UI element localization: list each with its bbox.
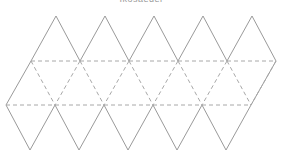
cut-edge [30, 105, 55, 150]
cut-edge [153, 105, 177, 150]
cut-edge [202, 105, 226, 150]
cut-edge [79, 105, 104, 150]
cut-edge [56, 16, 80, 61]
cut-edge [177, 105, 202, 150]
cut-edge [178, 16, 203, 61]
cut-edge [154, 16, 178, 61]
fold-line [80, 61, 104, 105]
fold-line [129, 61, 153, 105]
fold-line [153, 61, 178, 105]
cut-edge [105, 16, 129, 61]
cut-edge [252, 16, 276, 61]
cut-edge [6, 105, 30, 150]
fold-line [202, 61, 227, 105]
fold-line [55, 61, 80, 105]
cut-edge [128, 105, 153, 150]
cut-edge [226, 105, 251, 150]
cut-edge [55, 105, 79, 150]
cut-lines [6, 16, 276, 150]
cut-edge [227, 16, 252, 61]
icosahedron-net [0, 0, 283, 165]
fold-line [104, 61, 129, 105]
cut-edge [6, 61, 31, 105]
cut-edge [31, 16, 56, 61]
cut-edge [203, 16, 227, 61]
cut-edge [129, 16, 154, 61]
fold-line [178, 61, 202, 105]
cut-edge [104, 105, 128, 150]
fold-lines [6, 61, 276, 105]
cut-edge [80, 16, 105, 61]
fold-line [227, 61, 251, 105]
fold-line [31, 61, 55, 105]
